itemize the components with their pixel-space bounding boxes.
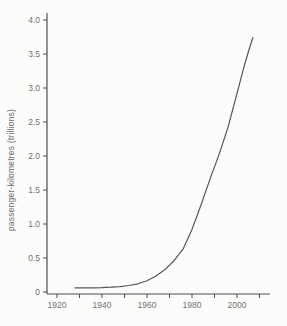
- chart-page: 00.51.01.52.02.53.03.54.0 passenger-kilo…: [0, 0, 287, 326]
- y-tick-label: 2.0: [28, 151, 40, 161]
- y-tick-label: 0.5: [28, 253, 40, 263]
- x-tick-label: 1940: [93, 300, 112, 310]
- x-axis: 19201940196019802000: [47, 294, 270, 310]
- y-axis: 00.51.01.52.02.53.03.54.0 passenger-kilo…: [6, 13, 47, 297]
- y-tick-label: 3.0: [28, 83, 40, 93]
- y-axis-title: passenger-kilometres (trillions): [6, 109, 16, 231]
- y-tick-label: 0: [35, 287, 40, 297]
- x-axis-tick-labels: 19201940196019802000: [48, 300, 247, 310]
- y-tick-label: 1.0: [28, 219, 40, 229]
- y-tick-label: 4.0: [28, 15, 40, 25]
- x-tick-label: 2000: [228, 300, 247, 310]
- x-tick-label: 1920: [48, 300, 67, 310]
- data-curve: [75, 38, 253, 288]
- x-tick-label: 1980: [183, 300, 202, 310]
- y-tick-label: 1.5: [28, 185, 40, 195]
- y-tick-label: 2.5: [28, 117, 40, 127]
- x-tick-label: 1960: [138, 300, 157, 310]
- y-tick-label: 3.5: [28, 49, 40, 59]
- passenger-kilometres-chart: 00.51.01.52.02.53.03.54.0 passenger-kilo…: [0, 0, 287, 326]
- y-axis-tick-labels: 00.51.01.52.02.53.03.54.0: [28, 15, 40, 297]
